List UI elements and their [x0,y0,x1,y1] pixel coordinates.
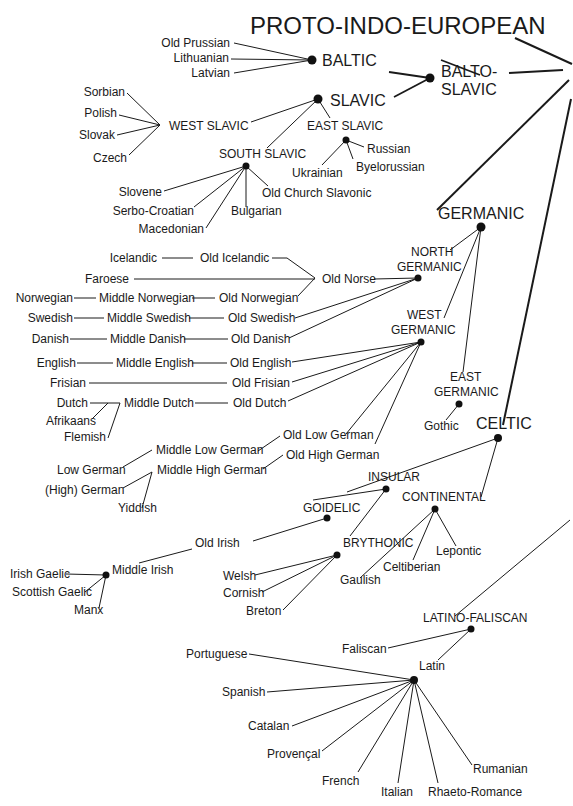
label-cornish: Cornish [223,586,264,600]
tree-edge [414,680,438,783]
tree-edge [292,342,421,362]
label-scottishgaelic: Scottish Gaelic [12,585,92,599]
label-oldhighgerman: Old High German [286,448,379,462]
label-westgerm2: GERMANIC [391,323,456,337]
label-southslavic: SOUTH SLAVIC [219,147,306,161]
label-portuguese: Portuguese [186,647,248,661]
label-oldlowgerman: Old Low German [283,428,374,442]
label-lowgerman: Low German [57,463,126,477]
label-eastgerm2: GERMANIC [434,385,499,399]
label-olddutch: Old Dutch [233,396,286,410]
label-midnorwegian: Middle Norwegian [99,291,195,305]
label-westgerm1: WEST [407,308,442,322]
tree-edge [262,555,337,592]
goidelic-node-dot [324,515,331,522]
baltic-node-dot [308,56,317,65]
label-dutch: Dutch [57,396,88,410]
label-middutch: Middle Dutch [124,396,194,410]
label-northgerm1: NORTH [411,245,453,259]
label-celtiberian: Celtiberian [383,560,440,574]
tree-edge [515,38,572,64]
label-gothic: Gothic [424,419,459,433]
tree-edge [292,680,414,726]
label-provencal: Provençal [267,747,320,761]
label-northgerm2: GERMANIC [397,260,462,274]
tree-edge [127,93,160,125]
label-pie: PROTO-INDO-EUROPEAN [250,12,546,39]
tree-edge [108,403,120,438]
tree-edge [435,509,456,546]
label-spanish: Spanish [222,685,265,699]
label-baltic: BALTIC [322,52,377,69]
label-celtic: CELTIC [476,415,532,432]
tree-edge [375,342,421,444]
label-gaulish: Gaulish [340,573,381,587]
tree-edge [394,78,430,97]
tree-edge [267,680,414,692]
eastslavic-node-dot [343,137,350,144]
label-russian: Russian [367,142,410,156]
tree-edge [139,549,192,563]
label-ukrainian: Ukrainian [292,166,343,180]
slavic-node-dot [314,95,323,104]
label-polish: Polish [84,106,117,120]
label-latvian: Latvian [191,66,230,80]
label-latin: Latin [419,659,445,673]
label-oldnorwegian: Old Norwegian [219,291,298,305]
latin-node-dot [410,676,418,684]
southslavic-node-dot [243,163,250,170]
label-bulgarian: Bulgarian [231,204,282,218]
label-goidelic: GOIDELIC [303,501,361,515]
label-italian: Italian [381,785,413,799]
tree-labels: PROTO-INDO-EUROPEANBALTICBALTO-SLAVICSLA… [10,12,546,799]
tree-edge [255,555,337,575]
label-afrikaans: Afrikaans [46,414,96,428]
tree-edge [246,166,268,186]
label-lithuanian: Lithuanian [174,51,229,65]
continental-node-dot [432,506,439,513]
tree-edge [455,520,570,616]
northgermanic-node-dot [415,275,422,282]
tree-edge [206,166,246,228]
tree-edge [438,629,471,660]
baltoslavic-node-dot [426,74,435,83]
latinofaliscan-node-dot [468,626,475,633]
label-rhaetoromance: Rhaeto-Romance [428,785,522,799]
label-balto2: SLAVIC [441,81,497,98]
label-faliscan: Faliscan [342,642,387,656]
label-french: French [322,774,359,788]
label-oldenglish: Old English [230,356,291,370]
label-breton: Breton [246,604,281,618]
label-frisian: Frisian [50,376,86,390]
tree-edge [389,72,430,78]
label-catalan: Catalan [248,719,289,733]
label-slovak: Slovak [79,128,116,142]
label-oldswedish: Old Swedish [228,311,295,325]
label-sorbian: Sorbian [84,85,125,99]
label-irishgaelic: Irish Gaelic [10,567,70,581]
tree-edge [503,99,571,425]
tree-edge [164,166,246,191]
tree-edge [129,125,160,155]
tree-edge [292,342,421,382]
tree-edge [231,59,312,60]
label-oldirish: Old Irish [195,536,240,550]
label-czech: Czech [93,151,127,165]
tree-edge [194,166,246,207]
tree-edge [346,342,421,434]
tree-edge [413,509,435,560]
label-highgerman: (High) German [45,483,124,497]
tree-edge [288,342,421,401]
label-slavic: SLAVIC [330,92,386,109]
middleirish-node-dot [103,572,110,579]
label-icelandic: Icelandic [110,251,157,265]
label-manx: Manx [74,603,103,617]
label-danish: Danish [32,332,69,346]
tree-edge [509,70,563,73]
tree-edge [117,125,160,135]
tree-edges [66,38,572,783]
tree-edge [123,450,152,467]
tree-edge [283,555,337,610]
eastgermanic-node-dot [456,401,463,408]
label-oldprussian: Old Prussian [161,36,230,50]
